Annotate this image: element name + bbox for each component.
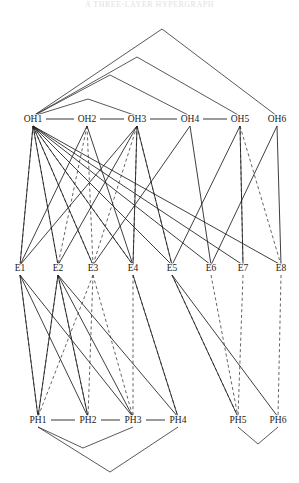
diagram-canvas: A THREE-LAYER HYPERGRAPH OH1OH2OH3OH4OH5… — [0, 0, 299, 483]
bottom-arc-PH1-PH4 — [38, 427, 178, 472]
oh-e-solid-edge-OH2-E4 — [87, 126, 133, 265]
bottom-arc-edges-group — [38, 427, 278, 472]
e-ph-solid-edge-E2-PH1 — [38, 275, 58, 417]
e-ph-solid-edge-E2-PH2 — [58, 275, 88, 417]
e-ph-solid-edge-E4-PH4 — [133, 275, 178, 417]
node-label-OH4: OH4 — [181, 114, 200, 124]
oh-e-solid-edges-group — [20, 126, 281, 265]
oh-e-solid-edge-OH4-E3 — [93, 126, 190, 265]
e-ph-solid-edge-E1-PH1 — [20, 275, 38, 417]
node-label-OH2: OH2 — [78, 114, 97, 124]
e-ph-dashed-edge-E7-PH5 — [238, 275, 243, 417]
e-ph-dashed-edge-E3-PH1 — [38, 275, 93, 417]
e-ph-solid-edges-group — [20, 275, 278, 417]
layered-hypergraph-svg: OH1OH2OH3OH4OH5OH6E1E2E3E4E5E6E7E8PH1PH2… — [0, 0, 299, 483]
node-label-PH6: PH6 — [270, 415, 287, 425]
e-ph-solid-edge-E5-PH6 — [172, 275, 278, 417]
node-label-E5: E5 — [167, 263, 178, 273]
oh-e-dashed-edge-OH2-E3 — [87, 126, 93, 265]
node-label-E8: E8 — [276, 263, 287, 273]
node-label-OH5: OH5 — [231, 114, 250, 124]
node-label-E2: E2 — [53, 263, 64, 273]
node-label-E4: E4 — [128, 263, 139, 273]
node-label-E6: E6 — [206, 263, 217, 273]
node-label-PH5: PH5 — [230, 415, 247, 425]
node-label-PH4: PH4 — [170, 415, 187, 425]
oh-e-solid-edge-OH1-E6 — [33, 126, 211, 265]
e-ph-dashed-edge-E8-PH6 — [278, 275, 281, 417]
e-ph-dashed-edge-E3-PH3 — [93, 275, 133, 417]
node-labels-group: OH1OH2OH3OH4OH5OH6E1E2E3E4E5E6E7E8PH1PH2… — [15, 114, 287, 425]
oh-e-solid-edge-OH3-E5 — [137, 126, 172, 265]
node-label-E1: E1 — [15, 263, 26, 273]
node-label-PH2: PH2 — [80, 415, 97, 425]
oh-e-solid-edge-OH3-E4 — [133, 126, 137, 265]
oh-e-solid-edge-OH5-E7 — [240, 126, 243, 265]
node-label-E3: E3 — [88, 263, 99, 273]
top-arc-OH1-OH4 — [33, 75, 190, 116]
e-ph-solid-edge-E1-PH2 — [20, 275, 88, 417]
top-arc-edges-group — [33, 29, 277, 116]
node-label-OH3: OH3 — [128, 114, 147, 124]
top-arc-OH1-OH5 — [33, 57, 240, 116]
oh-e-solid-edge-OH1-E3 — [33, 126, 93, 265]
oh-e-solid-edge-OH1-E1 — [20, 126, 33, 265]
e-ph-solid-edge-E2-PH3 — [58, 275, 133, 417]
oh-e-solid-edge-OH1-E7 — [33, 126, 243, 265]
oh-e-dashed-edge-OH3-E3 — [93, 126, 137, 265]
node-label-PH1: PH1 — [30, 415, 47, 425]
node-label-E7: E7 — [238, 263, 249, 273]
oh-e-solid-edge-OH6-E8 — [277, 126, 281, 265]
e-ph-dashed-edges-group — [20, 275, 281, 417]
oh-e-solid-edge-OH1-E4 — [33, 126, 133, 265]
bottom-arc-PH1-PH3 — [38, 427, 133, 448]
oh-e-solid-edge-OH4-E6 — [190, 126, 211, 265]
e-ph-solid-edge-E5-PH5 — [172, 275, 238, 417]
node-label-OH6: OH6 — [268, 114, 287, 124]
node-label-PH3: PH3 — [125, 415, 142, 425]
oh-e-solid-edge-OH5-E5 — [172, 126, 240, 265]
node-label-OH1: OH1 — [24, 114, 43, 124]
top-arc-OH1-OH6 — [33, 29, 277, 116]
oh-e-dashed-edge-OH5-E8 — [240, 126, 281, 265]
e-ph-dashed-edge-E3-PH2 — [88, 275, 93, 417]
bottom-arc-PH5-PH6 — [238, 427, 278, 444]
oh-e-solid-edge-OH3-E1 — [20, 126, 137, 265]
